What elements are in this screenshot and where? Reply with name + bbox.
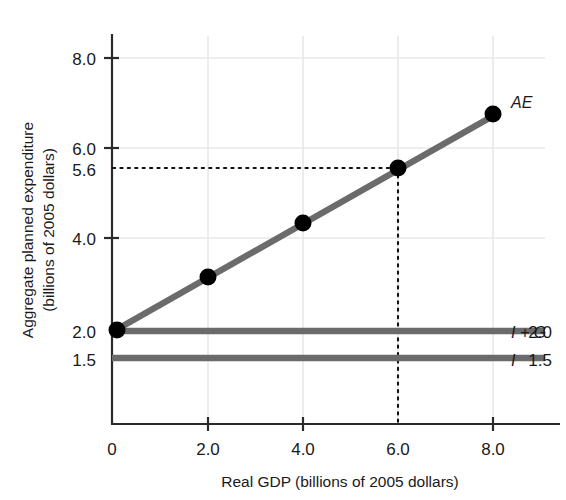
x-tick-label-6: 6.0 [386, 440, 410, 459]
y-tick-label-4: 4.0 [72, 230, 96, 249]
data-point-ae-2 [200, 269, 217, 286]
chart-page: 8.0 6.0 5.6 4.0 2.0 1.5 0 2.0 4.0 6.0 8.… [0, 0, 566, 500]
y-tick-label-2: 2.0 [72, 323, 96, 342]
data-point-ae-8 [485, 106, 502, 123]
y-axis-title-line-1: Aggregate planned expenditure [19, 122, 36, 338]
y-tick-label-8: 8.0 [72, 50, 96, 69]
right-value-i: 1.5 [528, 351, 552, 370]
data-point-ae-4 [295, 215, 312, 232]
x-tick-label-4: 4.0 [291, 440, 315, 459]
x-axis-title: Real GDP (billions of 2005 dollars) [221, 473, 459, 490]
x-tick-label-2: 2.0 [196, 440, 220, 459]
x-tick-label-0: 0 [107, 440, 116, 459]
data-point-ae-0 [109, 322, 126, 339]
series-label-I: I [511, 352, 516, 369]
y-axis-title-line-2: (billions of 2005 dollars) [40, 148, 57, 312]
aggregate-expenditure-chart: 8.0 6.0 5.6 4.0 2.0 1.5 0 2.0 4.0 6.0 8.… [0, 0, 566, 500]
y-tick-label-1-5: 1.5 [72, 351, 96, 370]
y-tick-label-6: 6.0 [72, 140, 96, 159]
data-point-ae-6 [390, 160, 407, 177]
y-tick-label-5-6: 5.6 [72, 161, 96, 180]
series-label-I-plus-G: I + G [511, 324, 546, 341]
x-tick-label-8: 8.0 [481, 440, 505, 459]
series-label-AE: AE [510, 94, 533, 111]
